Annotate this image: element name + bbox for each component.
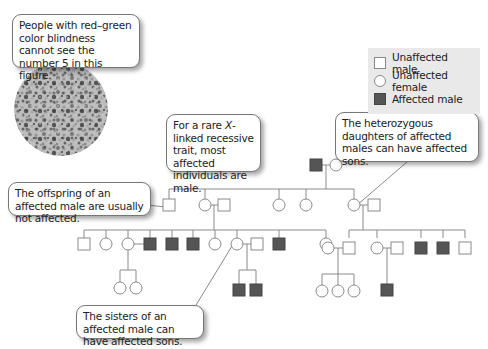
legend-label: Unaffected female — [392, 69, 474, 93]
legend-item-affected-male: Affected male — [374, 90, 474, 108]
callout-rare-trait-text-pre: For a rare — [173, 119, 225, 131]
callout-heterozygous-daughters-text: The heterozygous daughters of affected m… — [342, 117, 467, 167]
callout-sisters-text: The sisters of an affected male can have… — [83, 310, 182, 347]
open-circle-icon — [374, 75, 386, 87]
callout-sisters: The sisters of an affected male can have… — [76, 305, 204, 339]
callout-heterozygous-daughters: The heterozygous daughters of affected m… — [335, 112, 479, 162]
legend-label: Affected male — [392, 93, 462, 105]
affected-male-gen1 — [310, 159, 322, 171]
callout-offspring: The offspring of an affected male are us… — [8, 182, 151, 216]
filled-square-icon — [374, 93, 386, 105]
callout-color-blindness: People with red–green color blindness ca… — [12, 14, 140, 68]
callout-rare-trait-x: X — [225, 119, 232, 131]
callout-rare-trait: For a rare X-linked recessive trait, mos… — [166, 114, 261, 172]
open-square-icon — [374, 57, 386, 69]
legend-item-unaffected-female: Unaffected female — [374, 72, 474, 90]
legend: Unaffected male Unaffected female Affect… — [368, 48, 480, 114]
